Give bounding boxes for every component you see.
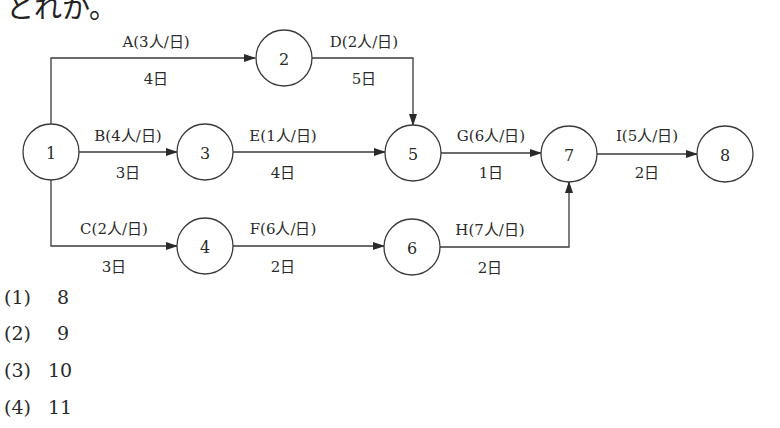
choice-value: 8 (48, 286, 69, 308)
activity-a-duration: 4日 (144, 70, 169, 88)
choice-number: (3) (4, 359, 48, 381)
activity-g-label: G(6人/日) (457, 127, 525, 145)
node-3-label: 3 (200, 144, 210, 163)
activity-e-duration: 4日 (271, 164, 296, 182)
choice-value: 11 (48, 396, 72, 418)
activity-b-duration: 3日 (116, 164, 141, 182)
activity-a-arrow (51, 58, 255, 125)
choice-number: (2) (4, 322, 48, 344)
choice-value: 10 (48, 359, 72, 381)
activity-e-label: E(1人/日) (249, 127, 316, 145)
node-5-label: 5 (408, 145, 418, 164)
activity-d-label: D(2人/日) (330, 33, 398, 51)
node-6-label: 6 (407, 239, 417, 258)
choice-3[interactable]: (3)10 (4, 359, 72, 389)
activity-h-duration: 2日 (478, 259, 503, 277)
activity-f-label: F(6人/日) (250, 220, 317, 238)
activity-d-arrow (312, 58, 413, 125)
activity-i-duration: 2日 (635, 164, 660, 182)
activity-h-label: H(7人/日) (455, 221, 524, 239)
node-7-label: 7 (564, 146, 574, 165)
activity-c-label: C(2人/日) (80, 220, 148, 238)
choice-number: (4) (4, 396, 48, 418)
activity-c-duration: 3日 (102, 258, 127, 276)
choice-1[interactable]: (1)8 (4, 286, 69, 316)
activity-a-label: A(3人/日) (121, 33, 189, 51)
choice-value: 9 (48, 322, 69, 344)
activity-d-duration: 5日 (352, 70, 377, 88)
activity-b-label: B(4人/日) (94, 127, 161, 145)
choice-2[interactable]: (2)9 (4, 322, 69, 352)
choice-number: (1) (4, 286, 48, 308)
node-4-label: 4 (200, 238, 210, 257)
node-8-label: 8 (720, 146, 730, 165)
node-1-label: 1 (46, 144, 56, 163)
choice-4[interactable]: (4)11 (4, 396, 72, 426)
activity-g-duration: 1日 (479, 164, 504, 182)
node-2-label: 2 (279, 50, 289, 69)
activity-f-duration: 2日 (271, 258, 296, 276)
arrow-network-diagram: 1 2 3 4 5 6 7 8 A(3人/日) 4日 B(4人/日) 3日 C(… (0, 0, 780, 290)
activity-i-label: I(5人/日) (616, 127, 678, 145)
